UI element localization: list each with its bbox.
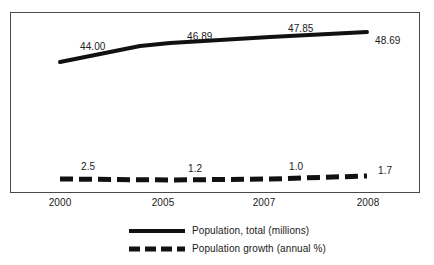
value-label-population-growth-2008: 1.7 (378, 165, 392, 177)
legend-label-population-total: Population, total (millions) (186, 225, 309, 237)
xaxis-tick-2007: 2007 (241, 197, 287, 209)
xaxis-tick-2000: 2000 (37, 197, 83, 209)
plot-lines (10, 12, 420, 193)
value-label-population-total-2008: 48.69 (375, 35, 401, 47)
value-label-population-total-2000: 44.00 (80, 41, 106, 53)
legend-swatch-solid-line-icon (128, 222, 186, 240)
population-chart: 44.00 46.89 47.85 48.69 2.5 1.2 1.0 1.7 … (0, 0, 434, 265)
value-label-population-total-2005: 46.89 (187, 31, 213, 43)
legend-label-population-growth: Population growth (annual %) (186, 243, 326, 255)
xaxis-tick-2008: 2008 (345, 197, 391, 209)
series-line-population-total (60, 32, 367, 62)
legend-item-population-total: Population, total (millions) (128, 222, 418, 240)
value-label-population-total-2007: 47.85 (288, 23, 314, 35)
series-line-population-growth (60, 176, 367, 180)
xaxis-tick-2005: 2005 (140, 197, 186, 209)
chart-legend: Population, total (millions) Population … (128, 222, 418, 258)
value-label-population-growth-2000: 2.5 (81, 161, 95, 173)
value-label-population-growth-2007: 1.0 (289, 161, 303, 173)
value-label-population-growth-2005: 1.2 (188, 163, 202, 175)
legend-item-population-growth: Population growth (annual %) (128, 240, 418, 258)
legend-swatch-dashed-line-icon (128, 240, 186, 258)
